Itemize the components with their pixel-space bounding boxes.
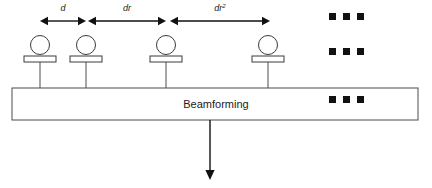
ellipsis-box-dot-3 bbox=[357, 96, 364, 103]
antenna-4-radiator-circle bbox=[259, 36, 278, 55]
antenna-1-radiator-circle bbox=[31, 36, 50, 55]
ellipsis-top-dot-1 bbox=[329, 13, 336, 20]
ellipsis-top bbox=[329, 13, 364, 20]
arrow-dr bbox=[88, 17, 166, 25]
ellipsis-box-dot-2 bbox=[343, 96, 350, 103]
spacing-label-dr2: dr2 bbox=[214, 3, 226, 13]
ellipsis-dots-group bbox=[329, 13, 364, 103]
arrow-d-head-right bbox=[78, 17, 86, 25]
antenna-element-2 bbox=[70, 36, 102, 89]
antenna-3-base-plate bbox=[150, 56, 182, 62]
antenna-element-3 bbox=[150, 36, 182, 89]
spacing-label-d-base: d bbox=[60, 3, 66, 13]
antenna-2-radiator-circle bbox=[77, 36, 96, 55]
ellipsis-top-dot-2 bbox=[343, 13, 350, 20]
ellipsis-middle-dot-3 bbox=[357, 48, 364, 55]
spacing-label-dr-base: dr bbox=[123, 3, 132, 13]
arrow-dr2-head-left bbox=[170, 17, 178, 25]
spacing-label-d: d bbox=[60, 3, 66, 13]
diagram-canvas: d dr dr2 Beamforming bbox=[0, 0, 432, 188]
ellipsis-middle-dot-1 bbox=[329, 48, 336, 55]
antenna-2-base-plate bbox=[70, 56, 102, 62]
arrow-dr2 bbox=[170, 17, 270, 25]
antenna-4-base-plate bbox=[252, 56, 284, 62]
arrow-d bbox=[40, 17, 86, 25]
output-arrow-head bbox=[205, 170, 214, 180]
antenna-3-radiator-circle bbox=[157, 36, 176, 55]
beamforming-label: Beamforming bbox=[183, 98, 248, 110]
output-arrow bbox=[205, 120, 214, 180]
antenna-1-base-plate bbox=[24, 56, 56, 62]
spacing-label-group: d dr dr2 bbox=[60, 3, 226, 13]
antenna-element-4 bbox=[252, 36, 284, 89]
antenna-element-1 bbox=[24, 36, 56, 89]
antenna-array-beamforming-diagram: d dr dr2 Beamforming bbox=[0, 0, 432, 188]
spacing-arrow-group bbox=[40, 17, 270, 25]
spacing-label-dr: dr bbox=[123, 3, 132, 13]
ellipsis-box bbox=[329, 96, 364, 103]
antenna-element-group bbox=[24, 36, 284, 89]
arrow-dr2-head-right bbox=[262, 17, 270, 25]
beamforming-block: Beamforming bbox=[12, 88, 418, 120]
ellipsis-middle bbox=[329, 48, 364, 55]
arrow-dr-head-right bbox=[158, 17, 166, 25]
arrow-d-head-left bbox=[40, 17, 48, 25]
spacing-label-dr2-exponent: 2 bbox=[221, 3, 226, 9]
ellipsis-top-dot-3 bbox=[357, 13, 364, 20]
arrow-dr-head-left bbox=[88, 17, 96, 25]
ellipsis-middle-dot-2 bbox=[343, 48, 350, 55]
ellipsis-box-dot-1 bbox=[329, 96, 336, 103]
